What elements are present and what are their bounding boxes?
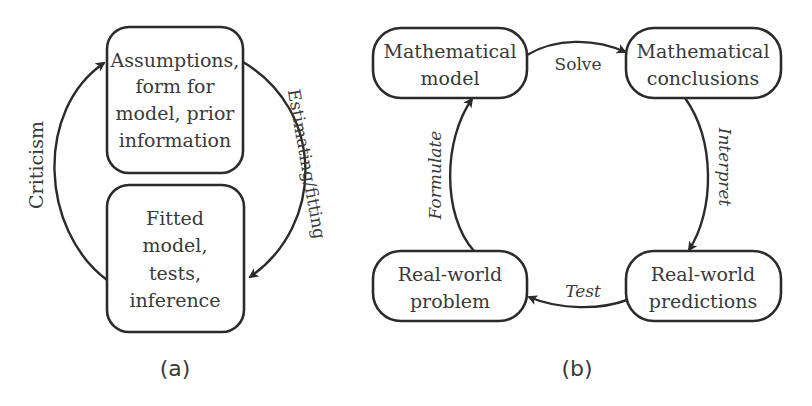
interpret-arrow: [685, 98, 708, 250]
real-world-problem-line-1: Real-world: [398, 263, 502, 285]
caption-b: (b): [561, 356, 592, 381]
real-world-problem-line-2: problem: [410, 290, 490, 312]
mathematical-conclusions-line-1: Mathematical: [637, 40, 770, 62]
mathematical-model-line-2: model: [421, 67, 480, 89]
fitted-line-4: inference: [129, 289, 220, 311]
fitted-line-2: model,: [143, 234, 208, 256]
test-label: Test: [565, 281, 601, 301]
real-world-predictions-line-2: predictions: [649, 290, 758, 312]
interpret-label: Interpret: [715, 127, 735, 207]
caption-a: (a): [160, 356, 191, 381]
assumptions-line-3: model, prior: [116, 102, 236, 124]
criticism-arrow: [54, 63, 107, 280]
node-mathematical-conclusions: Mathematical conclusions: [626, 28, 781, 98]
estimating-fitting-label: Estimating/fitting: [284, 87, 330, 240]
assumptions-line-2: form for: [135, 75, 215, 97]
mathematical-model-line-1: Mathematical: [384, 40, 517, 62]
mathematical-conclusions-line-2: conclusions: [647, 67, 760, 89]
node-mathematical-model: Mathematical model: [373, 28, 527, 98]
node-assumptions: Assumptions, form for model, prior infor…: [107, 27, 243, 173]
fitted-line-3: tests,: [149, 262, 201, 284]
formulate-arrow: [450, 99, 474, 251]
fitted-line-1: Fitted: [146, 207, 204, 229]
node-real-world-problem: Real-world problem: [373, 251, 527, 321]
diagram-b: Mathematical model Mathematical conclusi…: [373, 28, 781, 381]
diagram-a: Assumptions, form for model, prior infor…: [25, 27, 330, 381]
formulate-label: Formulate: [425, 131, 445, 221]
node-fitted: Fitted model, tests, inference: [107, 185, 244, 332]
assumptions-line-1: Assumptions,: [110, 49, 240, 71]
solve-label: Solve: [555, 54, 602, 74]
real-world-predictions-line-1: Real-world: [651, 263, 755, 285]
criticism-label: Criticism: [25, 121, 47, 209]
figure: Assumptions, form for model, prior infor…: [0, 0, 812, 406]
node-real-world-predictions: Real-world predictions: [626, 251, 781, 321]
assumptions-line-4: information: [119, 129, 232, 151]
